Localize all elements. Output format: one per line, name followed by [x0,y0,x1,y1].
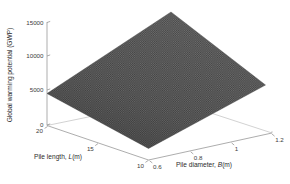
y-ticklabel-15: 15 [87,145,94,152]
x-axis-title-group: Pile diameter, B(m) [176,161,232,169]
y-axis-title-suffix: (m) [72,153,82,161]
gwp-surface [47,12,266,149]
x-tick-0.6 [150,161,153,163]
y-tick-20 [45,127,48,129]
z-tick-10000 [47,55,50,56]
z-axis-ticklabels: 15000 10000 5000 0 [26,19,44,129]
z-axis-ticks [47,21,50,125]
x-axis-ticks [150,134,275,163]
matlab-figure-canvas: 15000 10000 5000 0 20 15 10 0.6 0.8 1 1.… [0,0,290,184]
y-tick-10 [145,160,148,162]
surface-plot-svg: 15000 10000 5000 0 20 15 10 0.6 0.8 1 1.… [0,0,290,184]
z-ticklabel-15000: 15000 [26,19,44,26]
z-tick-15000 [47,21,50,22]
z-axis-title-group: Global warming potential (GWP) [6,28,14,123]
z-ticklabel-5000: 5000 [30,86,44,93]
z-axis-title: Global warming potential (GWP) [6,28,14,123]
y-axis-title-group: Pile length, L(m) [34,153,82,161]
y-ticklabel-20: 20 [36,127,43,134]
z-tick-5000 [47,89,50,90]
y-ticklabel-10: 10 [137,162,144,169]
x-tick-1 [232,143,235,145]
y-tick-15 [95,144,98,146]
y-axis-title: Pile length, L(m) [34,153,82,161]
x-axis-title-prefix: Pile diameter, [176,161,218,168]
surface-shading [47,12,266,149]
x-ticklabel-1.2: 1.2 [275,136,284,143]
x-axis-title-suffix: (m) [222,161,232,169]
x-ticklabel-0.6: 0.6 [153,163,162,170]
z-ticklabel-10000: 10000 [26,52,44,59]
x-ticklabel-1: 1 [235,145,239,152]
y-axis-title-prefix: Pile length, [34,153,68,161]
x-axis-title: Pile diameter, B(m) [176,161,232,169]
